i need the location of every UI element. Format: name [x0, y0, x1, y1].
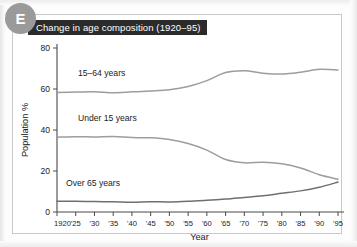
scan-edge-top: [0, 0, 357, 5]
figure-badge-label: E: [15, 10, 25, 27]
figure-badge: E: [5, 3, 36, 34]
figure-title-text: Change in age composition (1920–95): [36, 22, 201, 33]
scan-edge-right: [350, 0, 357, 247]
figure-panel: [12, 14, 342, 234]
scan-edge-bottom: [0, 241, 357, 247]
scan-edge-left: [0, 0, 6, 247]
figure-title: Change in age composition (1920–95): [28, 20, 207, 35]
